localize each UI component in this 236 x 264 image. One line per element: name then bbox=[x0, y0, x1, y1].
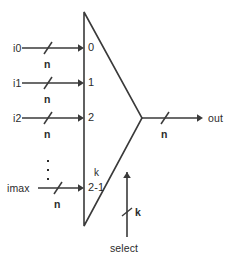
mux-diagram: i0 i1 i2 imax n n n n 0 1 2 2-1 k n out … bbox=[0, 0, 236, 264]
output-label-out: out bbox=[208, 113, 223, 124]
input-label-i0: i0 bbox=[13, 43, 21, 54]
bus-width-label-out: n bbox=[161, 129, 168, 140]
input-wire-1 bbox=[22, 77, 84, 89]
input-wire-max bbox=[38, 182, 84, 194]
bus-width-label-i2: n bbox=[44, 129, 51, 140]
port-index-max-exponent: k bbox=[94, 168, 99, 178]
diagram-canvas bbox=[0, 0, 236, 264]
select-wire bbox=[122, 172, 132, 237]
select-label: select bbox=[110, 243, 138, 254]
input-wire-2 bbox=[22, 112, 84, 124]
input-wire-0 bbox=[22, 42, 84, 54]
port-index-0: 0 bbox=[88, 42, 94, 53]
input-label-i2: i2 bbox=[13, 113, 21, 124]
port-index-1: 1 bbox=[88, 77, 94, 88]
input-label-imax: imax bbox=[7, 183, 30, 194]
bus-width-label-i0: n bbox=[44, 59, 51, 70]
input-label-i1: i1 bbox=[13, 78, 21, 89]
bus-width-label-imax: n bbox=[54, 199, 61, 210]
bus-width-label-select: k bbox=[135, 207, 141, 218]
input-ellipsis-dots bbox=[47, 160, 50, 180]
output-wire bbox=[142, 112, 203, 124]
port-index-max: 2-1 bbox=[88, 182, 104, 193]
port-index-2: 2 bbox=[88, 112, 94, 123]
bus-width-label-i1: n bbox=[44, 94, 51, 105]
